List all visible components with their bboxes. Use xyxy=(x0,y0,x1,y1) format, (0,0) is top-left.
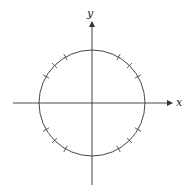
tick-mark-300 xyxy=(117,146,121,152)
unit-circle-diagram: x y xyxy=(0,0,185,189)
x-axis-label: x xyxy=(176,96,183,109)
tick-mark-120 xyxy=(64,54,68,60)
tick-mark-330 xyxy=(135,128,141,132)
tick-mark-150 xyxy=(43,75,49,79)
tick-mark-210 xyxy=(43,128,49,132)
tick-mark-240 xyxy=(64,146,68,152)
tick-mark-60 xyxy=(117,54,121,60)
tick-mark-30 xyxy=(135,75,141,79)
y-axis-label: y xyxy=(86,7,94,20)
